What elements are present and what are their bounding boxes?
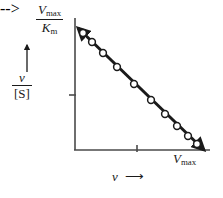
data-point bbox=[114, 64, 121, 71]
data-point bbox=[162, 111, 169, 118]
regression-line bbox=[78, 28, 204, 150]
x-intercept-symbol: V bbox=[173, 151, 181, 166]
axes bbox=[74, 18, 210, 150]
data-point bbox=[194, 141, 201, 148]
x-axis-title: v ⟶ bbox=[112, 170, 143, 183]
data-point bbox=[148, 97, 155, 104]
x-axis-direction-arrow-icon: ⟶ bbox=[125, 169, 143, 184]
data-point bbox=[80, 30, 87, 37]
y-intercept-numerator-symbol: V bbox=[38, 2, 46, 17]
y-intercept-denominator-subscript: m bbox=[50, 26, 57, 36]
y-intercept-numerator-subscript: max bbox=[46, 8, 61, 18]
y-axis-title: v [S] bbox=[12, 71, 32, 100]
y-axis-title-numerator: v bbox=[19, 70, 25, 85]
eadie-hofstee-figure: Vmax Km v [S] Vmax --> v ⟶ bbox=[0, 0, 223, 198]
data-point bbox=[89, 39, 96, 46]
x-axis-title-symbol: v bbox=[112, 169, 118, 184]
tick-marks bbox=[69, 95, 137, 152]
y-axis-title-denominator: [S] bbox=[14, 86, 30, 101]
data-point bbox=[185, 133, 192, 140]
data-point bbox=[174, 123, 181, 130]
x-intercept-subscript: max bbox=[181, 157, 196, 167]
y-intercept-label: Vmax Km bbox=[36, 3, 63, 36]
data-point bbox=[131, 81, 138, 88]
x-intercept-label: Vmax bbox=[173, 152, 196, 167]
data-point bbox=[100, 50, 107, 57]
